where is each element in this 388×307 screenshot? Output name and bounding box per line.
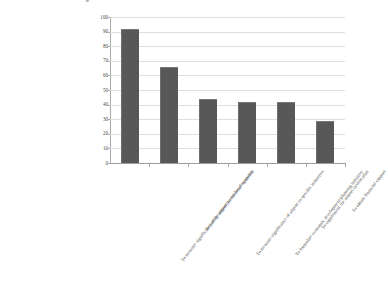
y-tick-label: 100	[90, 15, 108, 20]
bar	[121, 29, 139, 163]
gridline	[110, 134, 345, 135]
gridline	[110, 119, 345, 120]
y-tick-label: 10	[90, 146, 108, 151]
x-tick-mark	[306, 164, 307, 167]
bar	[160, 67, 178, 163]
x-tick-mark	[228, 164, 229, 167]
bar	[316, 121, 334, 163]
y-tick-label: 20	[90, 131, 108, 136]
gridline	[110, 105, 345, 106]
y-tick-label: 30	[90, 117, 108, 122]
y-tick-label: 70	[90, 58, 108, 63]
plot-area	[110, 17, 345, 163]
gridline	[110, 61, 345, 62]
x-tick-mark	[267, 164, 268, 167]
y-tick-label: 80	[90, 44, 108, 49]
x-category-label: To justify airport investment/expansion	[204, 169, 255, 232]
x-category-label: To measure significance of airport to sp…	[255, 169, 326, 257]
gridline	[110, 75, 345, 76]
y-tick-label: 50	[90, 88, 108, 93]
bar	[199, 99, 217, 163]
y-tick-label: 40	[90, 102, 108, 107]
y-tick-label: 0	[90, 161, 108, 166]
y-tick-label: 60	[90, 73, 108, 78]
x-tick-mark	[345, 164, 346, 167]
gridline	[110, 148, 345, 149]
gridline	[110, 17, 345, 18]
gridline	[110, 90, 345, 91]
gridline	[110, 46, 345, 47]
x-tick-mark	[149, 164, 150, 167]
bar	[238, 102, 256, 163]
y-tick-label: 90	[90, 29, 108, 34]
bar	[277, 102, 295, 163]
x-tick-mark	[188, 164, 189, 167]
y-axis-ticks: 1009080706050403020100	[86, 17, 108, 164]
gridline	[110, 32, 345, 33]
